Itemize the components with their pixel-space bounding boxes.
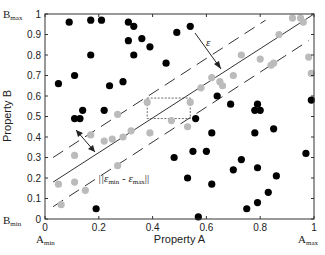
data-point-gray — [82, 187, 89, 194]
y-tick-label: 0.6 — [27, 91, 41, 102]
data-point-gray — [55, 181, 62, 188]
data-point-gray — [146, 129, 153, 136]
data-point-gray — [119, 133, 126, 140]
data-point-black — [184, 174, 191, 181]
data-point-gray — [101, 138, 108, 145]
data-point-gray — [184, 123, 191, 130]
norm-label: ||εmin - εmax|| — [98, 172, 149, 186]
x-tick-label: 0.4 — [146, 222, 160, 233]
y-tick-label: 1 — [35, 9, 41, 20]
b-max-label: Bmax — [3, 8, 23, 22]
y-tick-label: 0.7 — [27, 70, 41, 81]
data-point-black — [130, 51, 137, 58]
data-point-black — [87, 17, 94, 24]
data-point-black — [187, 23, 194, 30]
data-point-black — [79, 107, 86, 114]
data-point-gray — [197, 84, 204, 91]
y-tick-label: 0 — [35, 214, 41, 225]
data-point-gray — [300, 19, 307, 26]
data-point-black — [227, 101, 234, 108]
data-point-black — [254, 164, 261, 171]
epsilon-arrowhead-icon — [214, 61, 221, 69]
data-point-black — [265, 189, 272, 196]
data-point-black — [130, 23, 137, 30]
data-point-black — [203, 148, 210, 155]
data-point-black — [119, 78, 126, 85]
data-point-gray — [168, 117, 175, 124]
y-tick-label: 0.3 — [27, 152, 41, 163]
x-axis-label: Property A — [154, 233, 206, 245]
data-point-black — [257, 107, 264, 114]
plot-area — [53, 14, 315, 221]
data-point-black — [243, 205, 250, 212]
y-tick-label: 0.2 — [27, 173, 41, 184]
data-point-gray — [289, 15, 296, 22]
data-point-black — [162, 60, 169, 67]
data-point-gray — [275, 31, 282, 38]
data-point-black — [71, 72, 78, 79]
data-point-gray — [208, 74, 215, 81]
x-tick-label: 0.8 — [253, 222, 267, 233]
data-point-black — [171, 154, 178, 161]
data-point-gray — [219, 82, 226, 89]
data-point-black — [101, 107, 108, 114]
epsilon-label: ε — [206, 36, 211, 48]
data-point-black — [66, 19, 73, 26]
data-point-gray — [187, 99, 194, 106]
data-point-black — [251, 129, 258, 136]
data-point-gray — [238, 51, 245, 58]
data-point-black — [208, 129, 215, 136]
y-tick-label: 0.9 — [27, 29, 41, 40]
x-tick-label: 0.6 — [199, 222, 213, 233]
data-point-black — [192, 115, 199, 122]
data-point-gray — [270, 60, 277, 67]
data-point-gray — [144, 99, 151, 106]
data-point-gray — [109, 135, 116, 142]
data-point-gray — [257, 56, 264, 63]
b-min-label: Bmin — [3, 214, 22, 228]
data-point-black — [125, 37, 132, 44]
data-point-black — [76, 115, 83, 122]
x-tick-label: 0 — [42, 222, 48, 233]
data-point-black — [189, 148, 196, 155]
a-min-label: Amin — [36, 233, 55, 247]
y-tick-label: 0.8 — [27, 50, 41, 61]
data-point-gray — [127, 127, 134, 134]
norm-arrowhead-bottom-icon — [88, 145, 95, 152]
data-point-black — [238, 156, 245, 163]
data-point-black — [98, 17, 105, 24]
data-point-black — [273, 172, 280, 179]
data-point-gray — [71, 179, 78, 186]
data-point-black — [173, 29, 180, 36]
y-tick-label: 0.5 — [27, 111, 41, 122]
scatter-chart: 00.20.40.60.8100.10.20.30.40.50.60.70.80… — [0, 0, 325, 255]
a-max-label: Amax — [298, 233, 319, 247]
data-point-gray — [114, 162, 121, 169]
data-point-black — [254, 101, 261, 108]
data-point-black — [208, 181, 215, 188]
data-point-gray — [58, 201, 65, 208]
norm-arrowhead-top-icon — [76, 130, 83, 137]
data-point-gray — [230, 72, 237, 79]
y-tick-label: 0.4 — [27, 132, 41, 143]
data-point-black — [214, 92, 221, 99]
x-tick-label: 0.2 — [92, 222, 106, 233]
data-point-gray — [87, 131, 94, 138]
selection-rectangle — [147, 98, 190, 119]
y-axis-label: Property B — [1, 90, 13, 142]
data-point-black — [254, 199, 261, 206]
data-point-black — [93, 205, 100, 212]
data-point-black — [146, 43, 153, 50]
data-point-black — [302, 150, 309, 157]
data-point-black — [55, 80, 62, 87]
x-tick-label: 1 — [311, 222, 317, 233]
data-point-black — [270, 125, 277, 132]
data-point-black — [87, 51, 94, 58]
data-point-gray — [71, 152, 78, 159]
data-point-gray — [114, 111, 121, 118]
data-point-black — [138, 35, 145, 42]
data-point-black — [230, 166, 237, 173]
data-point-black — [106, 82, 113, 89]
y-tick-label: 0.1 — [27, 193, 41, 204]
